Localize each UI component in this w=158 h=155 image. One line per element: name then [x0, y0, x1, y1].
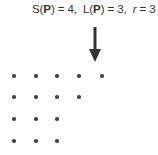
l-label: L( [83, 3, 93, 15]
separator: , [74, 3, 83, 15]
ferrers-dot [55, 117, 59, 121]
ferrers-dot [55, 95, 59, 99]
ferrers-dot [100, 74, 104, 78]
down-arrow-icon [89, 27, 101, 63]
ferrers-dot [12, 139, 16, 143]
l-var: P [93, 3, 101, 15]
r-eq: = [137, 3, 150, 15]
ferrers-dot [77, 95, 81, 99]
ferrers-dot [34, 95, 38, 99]
ferrers-dot [34, 117, 38, 121]
ferrers-dot [34, 74, 38, 78]
ferrers-dot [55, 74, 59, 78]
ferrers-dot [34, 139, 38, 143]
s-var: P [43, 3, 51, 15]
s-close: ) = [51, 3, 68, 15]
ferrers-dot [77, 74, 81, 78]
partition-statistics-caption: S(P) = 4, L(P) = 3, r = 3 [32, 3, 156, 15]
ferrers-dot [12, 74, 16, 78]
r-value: 3 [149, 3, 155, 15]
ferrers-dot [12, 117, 16, 121]
ferrers-dot [55, 139, 59, 143]
ferrers-dot [12, 95, 16, 99]
separator: , [123, 3, 132, 15]
l-close: ) = [101, 3, 118, 15]
s-label: S( [32, 3, 43, 15]
